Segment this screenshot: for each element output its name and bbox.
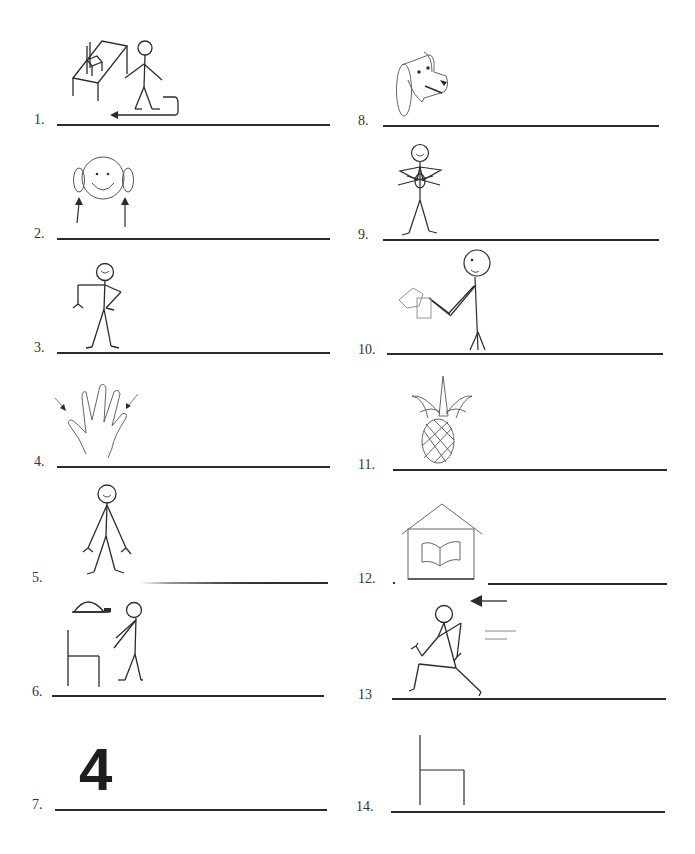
item-number: 2. [34,226,45,242]
turtle-chair-figure-icon [64,598,154,690]
answer-line[interactable] [57,352,330,354]
stray-mark [393,582,395,584]
chair-table-walk-icon [70,38,185,118]
answer-line[interactable] [55,809,327,811]
answer-line[interactable] [52,695,324,697]
running-stick-figure-arrow-icon [408,593,513,697]
item-number: 6. [32,684,43,700]
answer-line[interactable] [393,469,667,471]
answer-line[interactable] [383,239,659,241]
pineapple-icon [410,376,476,464]
item-number: 7. [32,797,43,813]
item-number: 9. [358,227,369,243]
item-number: 3. [34,340,45,356]
answer-line[interactable] [57,238,330,240]
numeral-four-glyph: 4 [79,740,112,800]
face-ears-icon [70,155,140,230]
item-number: 10. [358,342,376,358]
item-number: 13 [358,687,372,703]
chair-icon [418,733,468,808]
item-number: 14. [356,799,374,815]
hand-arrows-icon [52,378,142,458]
answer-line[interactable] [392,698,666,700]
item-number: 12. [358,571,376,587]
answer-line[interactable] [57,124,330,126]
house-with-book-icon [402,504,486,582]
item-number: 8. [358,113,369,129]
answer-line[interactable] [140,582,328,584]
item-number: 5. [32,570,43,586]
item-number: 11. [358,457,375,473]
answer-line[interactable] [391,811,665,813]
dog-head-icon [394,50,464,120]
answer-line[interactable] [57,466,330,468]
item-number: 1. [34,112,45,128]
answer-line[interactable] [383,125,659,127]
stick-figure-arms-crossed-icon [395,143,455,237]
answer-line[interactable] [387,353,663,355]
stick-figure-standing-icon [80,484,140,578]
answer-line[interactable] [488,583,667,585]
stick-figure-holding-paper-icon [397,250,497,352]
stick-figure-hand-on-hip-icon [70,262,130,350]
item-number: 4. [34,454,45,470]
